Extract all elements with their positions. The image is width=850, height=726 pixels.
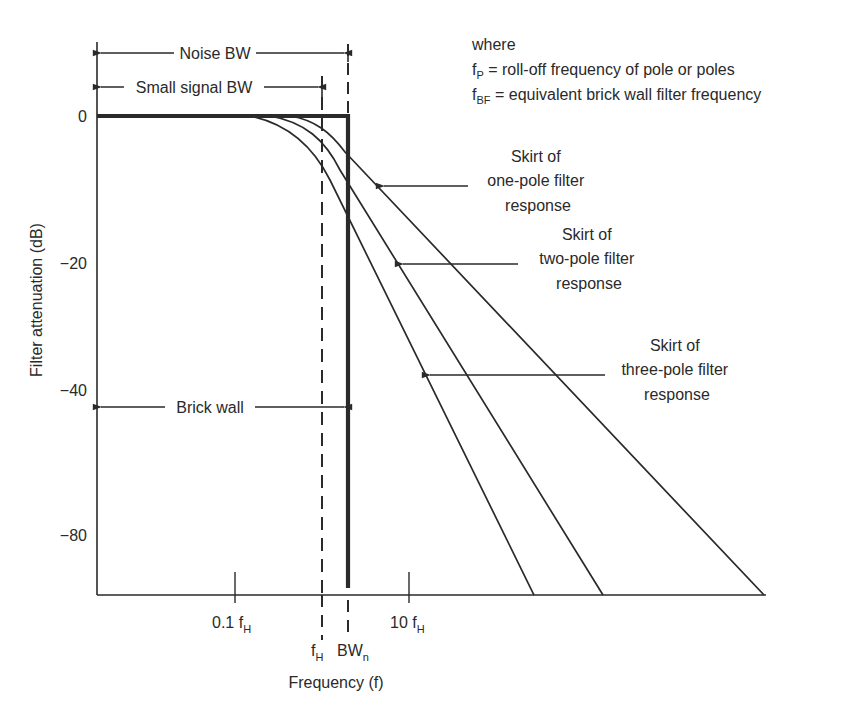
three-pole-annotation: Skirt of three-pole filter response (621, 337, 732, 403)
filter-response-diagram: 0 −20 −40 −80 Filter attenuation (dB) 0.… (0, 0, 850, 726)
x-tick-label-10fh: 10 fH (390, 614, 425, 635)
two-pole-annotation: Skirt of two-pole filter response (539, 226, 639, 292)
y-tick-minus80: −80 (60, 527, 87, 544)
x-tick-label-bwn: BWn (337, 642, 369, 663)
y-axis-label: Filter attenuation (dB) (28, 223, 45, 377)
x-axis-label: Frequency (f) (288, 674, 383, 691)
legend-fbf: fBF = equivalent brick wall filter frequ… (472, 86, 761, 106)
brick-wall-response (97, 116, 348, 588)
brick-wall-label: Brick wall (176, 399, 244, 416)
legend-where: where (471, 36, 516, 53)
y-tick-minus20: −20 (60, 255, 87, 272)
x-tick-label-0.1fh: 0.1 fH (212, 614, 251, 635)
x-tick-label-fh: fH (311, 642, 323, 663)
one-pole-annotation: Skirt of one-pole filter response (487, 148, 588, 214)
small-signal-bw-label: Small signal BW (136, 79, 253, 96)
y-tick-0: 0 (78, 108, 87, 125)
legend-fp: fP = roll-off frequency of pole or poles (472, 61, 735, 81)
noise-bw-label: Noise BW (179, 45, 251, 62)
y-tick-minus40: −40 (60, 382, 87, 399)
